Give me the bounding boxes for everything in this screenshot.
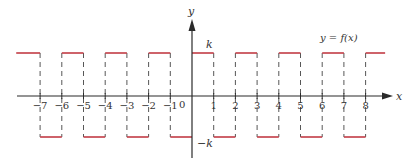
x-tick-label: 1 <box>211 100 217 111</box>
x-tick-label: −7 <box>33 100 48 111</box>
x-tick-label: 7 <box>341 100 347 111</box>
x-axis-arrow-icon <box>382 93 393 100</box>
y-axis-label: y <box>187 5 195 18</box>
x-tick-label: −1 <box>163 100 178 111</box>
x-tick-label: 8 <box>362 100 368 111</box>
square-wave-curve <box>16 53 385 137</box>
x-tick-label: −3 <box>120 100 135 111</box>
x-axis-label: x <box>396 90 403 103</box>
x-tick-label: 2 <box>232 100 238 111</box>
x-tick-label: 6 <box>319 100 325 111</box>
square-wave-figure: x y −7−6−5−4−3−2−112345678 0 k −k y = f(… <box>0 0 416 167</box>
x-tick-label: −6 <box>54 100 69 111</box>
origin-label: 0 <box>179 99 185 110</box>
function-label: y = f(x) <box>319 32 358 43</box>
jump-dashed-lines <box>40 53 366 137</box>
level-high-label: k <box>206 38 213 51</box>
x-tick-label: −4 <box>98 100 113 111</box>
y-axis-arrow-icon <box>189 19 196 31</box>
x-tick-label: −2 <box>141 100 156 111</box>
x-tick-label: 4 <box>276 100 282 111</box>
x-tick-label: 5 <box>297 100 303 111</box>
x-tick-label: −5 <box>76 100 91 111</box>
x-tick-label: 3 <box>254 100 260 111</box>
level-low-label: −k <box>197 137 213 150</box>
